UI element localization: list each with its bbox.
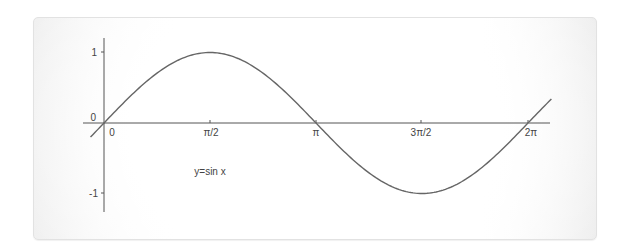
- y-tick-label-neg1: -1: [89, 188, 98, 199]
- x-tick-label-pi: π: [313, 127, 320, 138]
- x-tick-label-3pi-half: 3π/2: [411, 127, 432, 138]
- y-tick-label-1: 1: [91, 47, 97, 58]
- function-label: y=sin x: [194, 166, 225, 177]
- x-tick-label-0: 0: [109, 127, 115, 138]
- y-tick-label-0: 0: [90, 112, 96, 123]
- sine-plot: 1 0 -1 0 π/2 π 3π/2 2π y=sin x: [0, 0, 624, 250]
- x-tick-label-2pi: 2π: [525, 127, 538, 138]
- x-tick-label-pi-half: π/2: [203, 127, 219, 138]
